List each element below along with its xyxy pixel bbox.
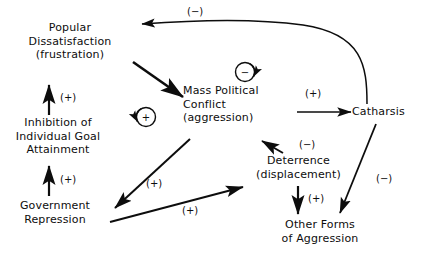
sign-deterrence-to-other-forms-of-aggression: (+) <box>308 193 324 204</box>
node-mass-political-conflict: Mass Political Conflict (aggression) <box>183 84 297 125</box>
sign-catharsis-to-other-forms-of-aggression: (−) <box>376 173 392 184</box>
node-popular-dissatisfaction-line-1: Popular <box>0 21 140 35</box>
edge-government-repression-to-deterrence <box>110 187 243 222</box>
sign-government-repression-to-deterrence: (+) <box>182 205 198 216</box>
node-government-repression-line-2: Repression <box>0 213 110 227</box>
sign-government-repression-to-inhibition: (+) <box>60 174 76 185</box>
node-mass-political-conflict-line-3: (aggression) <box>183 111 297 125</box>
node-catharsis-line-1: Catharsis <box>352 105 427 119</box>
node-mass-political-conflict-line-1: Mass Political <box>183 84 297 98</box>
node-inhibition-line-3: Attainment <box>0 143 116 157</box>
node-other-forms-of-aggression: Other Forms of Aggression <box>255 218 385 245</box>
edge-popular-dissatisfaction-to-mass-political-conflict <box>133 62 183 97</box>
node-inhibition-of-individual-goal-attainment: Inhibition of Individual Goal Attainment <box>0 116 116 157</box>
causal-loop-diagram: Popular Dissatisfaction : (-) --> Mass P… <box>0 0 427 263</box>
node-deterrence-line-1: Deterrence <box>230 154 367 168</box>
sign-mass-political-conflict-to-catharsis: (+) <box>305 88 321 99</box>
node-deterrence-line-2: (displacement) <box>230 168 367 182</box>
node-government-repression: Government Repression <box>0 199 110 226</box>
sign-deterrence-to-mass-political-conflict: (−) <box>299 139 315 150</box>
reinforcing-loop-sign: + <box>139 112 153 123</box>
edge-deterrence-to-mass-political-conflict <box>262 141 283 153</box>
node-deterrence: Deterrence (displacement) <box>230 154 367 181</box>
node-government-repression-line-1: Government <box>0 199 110 213</box>
node-mass-political-conflict-line-2: Conflict <box>183 98 297 112</box>
node-other-forms-line-1: Other Forms <box>255 218 385 232</box>
node-other-forms-line-2: of Aggression <box>255 232 385 246</box>
node-popular-dissatisfaction-line-2: Dissatisfaction <box>0 35 140 49</box>
edge-mass-political-conflict-to-government-repression <box>115 139 190 208</box>
node-popular-dissatisfaction: Popular Dissatisfaction (frustration) <box>0 21 140 62</box>
sign-catharsis-to-popular-dissatisfaction: (−) <box>187 6 203 17</box>
node-popular-dissatisfaction-line-3: (frustration) <box>0 48 140 62</box>
balancing-loop-sign: − <box>238 67 252 78</box>
node-catharsis: Catharsis <box>352 105 427 119</box>
node-inhibition-line-2: Individual Goal <box>0 130 116 144</box>
sign-inhibition-to-popular-dissatisfaction: (+) <box>60 92 76 103</box>
node-inhibition-line-1: Inhibition of <box>0 116 116 130</box>
sign-mass-political-conflict-to-government-repression: (+) <box>146 178 162 189</box>
